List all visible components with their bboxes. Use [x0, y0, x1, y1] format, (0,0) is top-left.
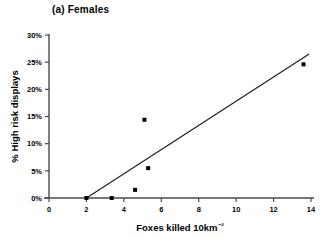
x-tick-label-2: 2	[84, 205, 88, 214]
x-tick-label-0: 0	[47, 205, 51, 214]
y-tick-label-0: 0%	[31, 194, 42, 203]
y-tick-label-5: 5%	[31, 167, 42, 176]
y-tick-label-30: 30%	[27, 31, 42, 40]
y-tick-label-20: 20%	[27, 85, 42, 94]
data-point-3	[142, 118, 146, 122]
y-tick-label-15: 15%	[27, 112, 42, 121]
x-tick-label-6: 6	[159, 205, 163, 214]
data-point-0	[84, 196, 88, 200]
data-point-1	[110, 196, 114, 200]
x-tick-label-4: 4	[122, 205, 127, 214]
regression-line	[86, 54, 309, 198]
data-point-2	[133, 188, 137, 192]
data-point-5	[302, 62, 306, 66]
x-axis-title: Foxes killed 10km⁻²	[136, 222, 224, 234]
data-point-4	[146, 166, 150, 170]
y-tick-label-25: 25%	[27, 58, 42, 67]
x-tick-label-14: 14	[307, 205, 316, 214]
y-axis-title: % High risk displays	[9, 70, 20, 162]
y-tick-label-10: 10%	[27, 139, 42, 148]
x-tick-label-10: 10	[232, 205, 240, 214]
figure-panel: (a) Females 0%5%10%15%20%25%30%024681012…	[0, 0, 326, 239]
x-tick-label-8: 8	[197, 205, 201, 214]
x-tick-label-12: 12	[269, 205, 277, 214]
scatter-plot: 0%5%10%15%20%25%30%02468101214% High ris…	[0, 0, 326, 239]
